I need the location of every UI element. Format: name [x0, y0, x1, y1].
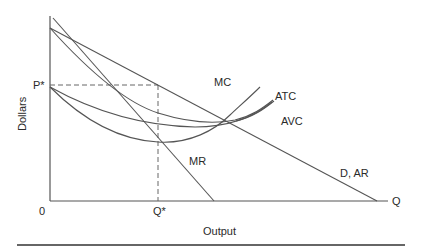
- mr-label: MR: [189, 155, 206, 167]
- avc-label: AVC: [281, 115, 303, 127]
- demand-label: D, AR: [340, 167, 369, 179]
- origin-label: 0: [39, 205, 45, 217]
- marginal-revenue-curve: [53, 18, 214, 201]
- price-label: P*: [33, 79, 45, 91]
- x-axis-end-label: Q: [392, 195, 401, 207]
- x-axis-label: Output: [203, 225, 236, 237]
- y-axis-label: Dollars: [16, 96, 28, 131]
- average-total-cost-curve: [50, 28, 273, 122]
- atc-label: ATC: [275, 90, 296, 102]
- mc-label: MC: [214, 76, 231, 88]
- quantity-label: Q*: [153, 205, 167, 217]
- demand-curve: [50, 28, 377, 201]
- monopoly-diagram: MC ATC AVC MR D, AR Q P* 0 Q* Output Dol…: [0, 0, 422, 248]
